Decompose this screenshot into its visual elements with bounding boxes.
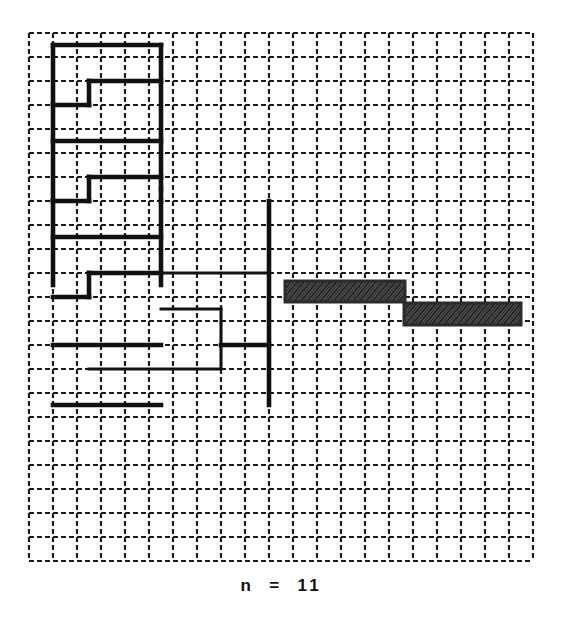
figure-root: n = 11 [0, 0, 562, 620]
lattice-path-figure [0, 0, 562, 620]
shaded-bar-lower [404, 303, 521, 325]
shaded-bar-upper [285, 281, 405, 302]
figure-caption: n = 11 [0, 576, 562, 596]
